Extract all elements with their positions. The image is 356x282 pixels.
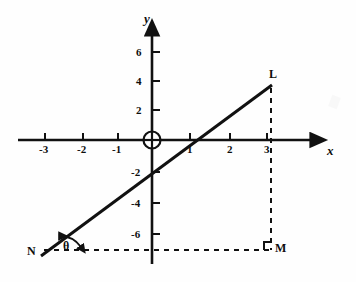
y-axis-label: y [144, 12, 150, 25]
x-tick-label--2: -2 [77, 144, 86, 155]
x-tick-label-3: 3 [264, 144, 270, 155]
x-tick-label--1: -1 [112, 144, 121, 155]
point-label-L: L [269, 68, 277, 80]
y-tick-label--4: -4 [131, 198, 140, 209]
y-tick-label-4: 4 [136, 76, 142, 87]
point-label-N: N [27, 245, 36, 257]
x-axis [18, 133, 312, 140]
point-label-M: M [275, 242, 286, 254]
y-tick-label--6: -6 [131, 229, 140, 240]
x-tick-label-1: 1 [187, 144, 193, 155]
origin-marker-icon [144, 132, 161, 149]
x-tick-label--3: -3 [39, 144, 48, 155]
angle-label-theta: θ [63, 240, 69, 252]
y-tick-label--2: -2 [131, 167, 140, 178]
x-axis-label: x [327, 144, 334, 157]
y-tick-label-2: 2 [136, 105, 142, 116]
x-tick-label-2: 2 [227, 144, 233, 155]
y-tick-label-6: 6 [136, 47, 142, 58]
figure-canvas: -3 -2 -1 1 2 3 6 4 2 -2 -4 -6 y x L M N … [0, 0, 356, 282]
coordinate-plane-graphic [0, 0, 356, 282]
